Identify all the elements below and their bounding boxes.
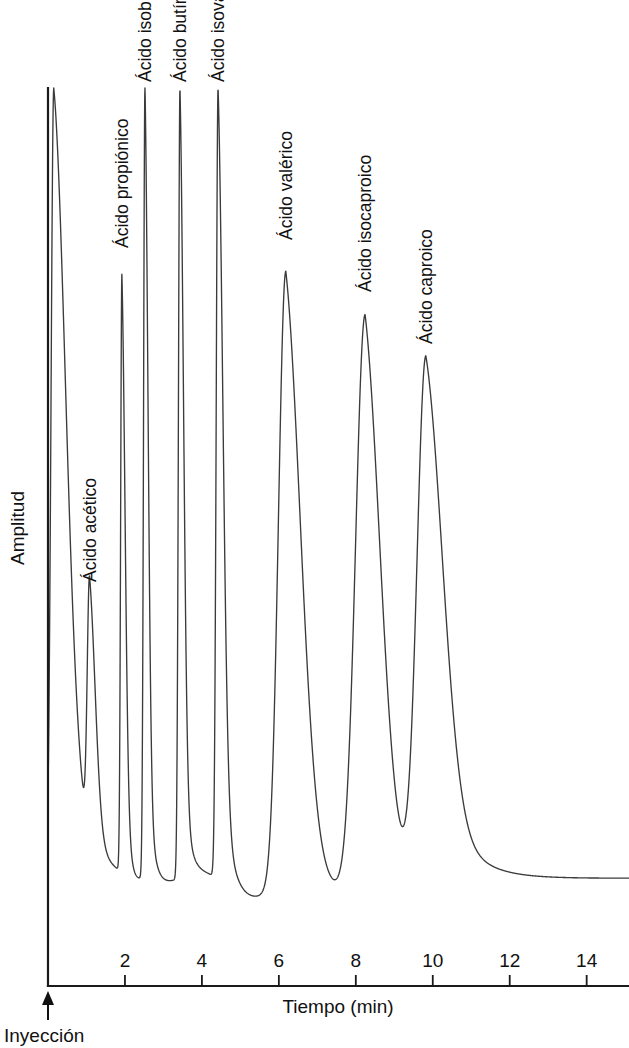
peak-label: Ácido propiónico xyxy=(112,119,132,248)
chromatogram-svg: 2468101214 Tiempo (min) Amplitud Ácido a… xyxy=(0,0,629,1048)
chart-axes xyxy=(48,88,629,986)
peak-label: Ácido butírico xyxy=(170,0,190,82)
x-axis-tick-label: 12 xyxy=(499,950,520,971)
x-axis-title: Tiempo (min) xyxy=(282,996,393,1017)
x-axis-tick-label: 14 xyxy=(576,950,598,971)
peak-label: Ácido acético xyxy=(80,478,100,582)
peak-label: Ácido isovalérico xyxy=(208,0,228,82)
x-axis-tick-label: 4 xyxy=(197,950,208,971)
x-axis-tick-label: 6 xyxy=(274,950,285,971)
x-axis-tick-label: 2 xyxy=(120,950,131,971)
injection-arrow-icon xyxy=(42,991,54,1005)
peak-labels: Ácido acéticoÁcido propiónicoÁcido isobu… xyxy=(80,0,436,582)
x-axis-ticks: 2468101214 xyxy=(120,950,598,986)
chromatogram-trace xyxy=(48,88,629,896)
x-axis-tick-label: 8 xyxy=(351,950,362,971)
peak-label: Ácido isocaproico xyxy=(355,155,375,292)
injection-marker: Inyección xyxy=(4,991,84,1046)
peak-label: Ácido caproico xyxy=(416,229,436,344)
peak-label: Ácido isobutírico xyxy=(135,0,155,82)
x-axis-tick-label: 10 xyxy=(422,950,443,971)
peak-label: Ácido valérico xyxy=(276,131,296,240)
chromatogram-figure: 2468101214 Tiempo (min) Amplitud Ácido a… xyxy=(0,0,629,1048)
chromatogram-trace-group xyxy=(48,88,629,896)
y-axis-title: Amplitud xyxy=(7,491,28,565)
injection-label: Inyección xyxy=(4,1025,84,1046)
